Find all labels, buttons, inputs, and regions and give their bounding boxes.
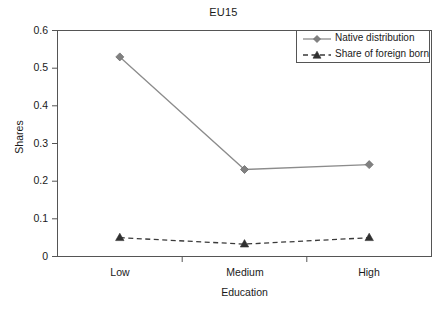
legend-item-share-of-foreign-born: Share of foreign born xyxy=(297,47,431,63)
x-axis-ticks xyxy=(182,257,307,263)
xtick-label-low: Low xyxy=(75,266,165,278)
chart-legend: Native distribution Share of foreign bor… xyxy=(296,30,430,63)
y-axis-ticks xyxy=(52,31,58,257)
legend-item-native-distribution: Native distribution xyxy=(297,31,431,47)
legend-swatch-native-icon xyxy=(301,31,333,47)
ytick-label-0.6: 0.6 xyxy=(16,24,48,36)
ytick-label-0: 0 xyxy=(16,250,48,262)
y-axis-title: Shares xyxy=(13,97,25,177)
legend-label-share-of-foreign-born: Share of foreign born xyxy=(335,48,429,59)
ytick-label-0.1: 0.1 xyxy=(16,212,48,224)
xtick-label-medium: Medium xyxy=(200,266,290,278)
plot-frame xyxy=(58,31,432,257)
x-axis-title: Education xyxy=(57,286,432,298)
legend-swatch-foreign-icon xyxy=(301,47,333,63)
xtick-label-high: High xyxy=(324,266,414,278)
legend-label-native-distribution: Native distribution xyxy=(335,32,414,43)
chart-figure: EU15 xyxy=(0,0,447,310)
ytick-label-0.5: 0.5 xyxy=(16,61,48,73)
